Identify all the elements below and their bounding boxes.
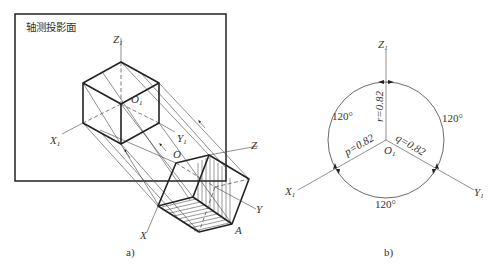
label-x: X <box>139 229 148 241</box>
angle-right: 120° <box>442 112 463 124</box>
label-a: A <box>234 224 242 236</box>
caption-a: a) <box>126 246 135 259</box>
coef-p: p=0.82 <box>341 131 376 158</box>
axis-y1 <box>386 140 474 190</box>
projected-axes <box>62 38 175 134</box>
label-o1: O1 <box>384 144 395 158</box>
label-z: Z <box>251 139 258 151</box>
angle-bottom: 120° <box>375 198 396 210</box>
label-o1: O1 <box>131 93 142 107</box>
label-x1: X1 <box>49 134 60 148</box>
label-y1: Y1 <box>474 186 484 200</box>
label-x1: X1 <box>284 185 295 199</box>
projection-plane-label: 轴测投影面 <box>26 21 76 33</box>
figure-a: 轴测投影面 Z1 O1 X1 Y1 O Z Y X A a) <box>15 14 264 259</box>
label-y: Y <box>256 203 264 215</box>
angle-left: 120° <box>332 110 353 122</box>
label-z1: Z1 <box>378 38 388 52</box>
label-z1: Z1 <box>113 33 123 47</box>
label-y1: Y1 <box>177 132 187 146</box>
projection-lines <box>83 62 249 232</box>
coef-r: r=0.82 <box>373 91 385 122</box>
diagram-canvas: 轴测投影面 Z1 O1 X1 Y1 O Z Y X A a) Z1 X1 Y1 <box>0 0 493 265</box>
figure-b: Z1 X1 Y1 O1 120° 120° 120° r=0.82 p=0.82… <box>284 38 484 259</box>
label-o: O <box>173 148 181 160</box>
caption-b: b) <box>384 246 394 259</box>
spatial-cube <box>158 155 249 232</box>
